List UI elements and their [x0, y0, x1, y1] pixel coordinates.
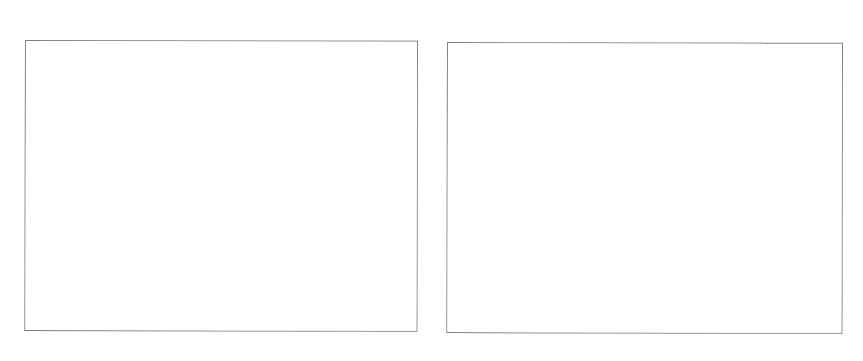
right-figure-frame[interactable]: [446, 42, 843, 334]
left-figure-frame[interactable]: [24, 40, 418, 332]
right-figure-content: [447, 43, 842, 333]
page-canvas: [0, 0, 863, 361]
left-figure-content: [25, 41, 417, 331]
